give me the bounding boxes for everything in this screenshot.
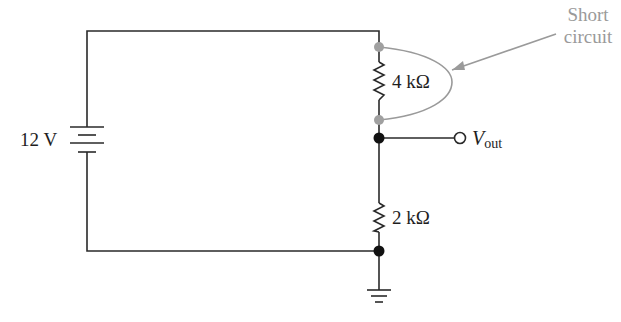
short-node-top (374, 42, 384, 52)
short-circuit-annotation: Short circuit (555, 4, 621, 48)
wires (87, 31, 454, 290)
ground-icon (367, 290, 391, 302)
resistor-2k-icon (374, 203, 384, 232)
schematic-drawing (0, 0, 621, 322)
battery-label: 12 V (20, 130, 57, 149)
short-node-bottom (374, 115, 384, 125)
vout-label: Vout (472, 128, 502, 151)
output-terminal (455, 133, 466, 144)
junction-node-bottom (374, 246, 385, 257)
junction-node-vout (374, 133, 385, 144)
annotation-arrow-line (452, 34, 556, 70)
arrow-head-icon (452, 61, 465, 70)
resistor-4k-icon (374, 62, 384, 100)
resistor-4k-label: 4 kΩ (392, 72, 430, 91)
bottom-wire (87, 152, 379, 251)
resistor-2k-label: 2 kΩ (392, 208, 430, 227)
circuit-diagram: 12 V 4 kΩ 2 kΩ Vout Short circuit (0, 0, 621, 322)
battery-icon (70, 127, 104, 152)
top-wire (87, 31, 379, 127)
